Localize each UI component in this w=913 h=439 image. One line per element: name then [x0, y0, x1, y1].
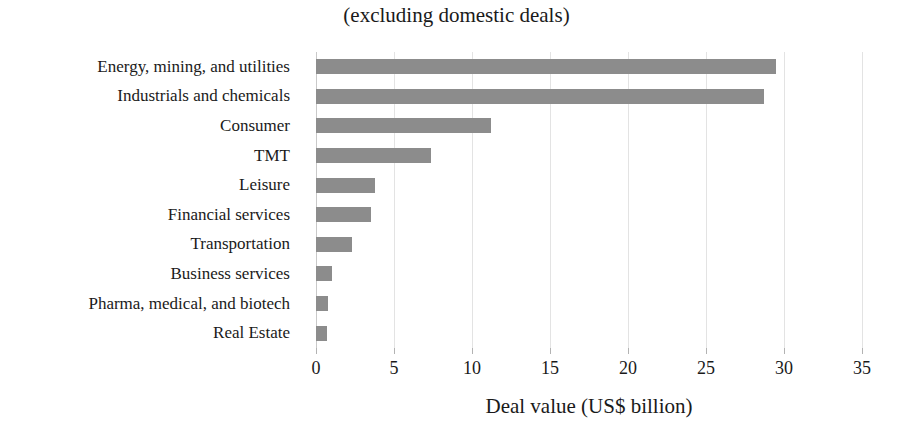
category-label: Pharma, medical, and biotech [88, 289, 290, 319]
gridline-35 [862, 52, 863, 348]
category-axis-labels: Energy, mining, and utilitiesIndustrials… [0, 52, 304, 348]
bar-row [316, 259, 862, 289]
x-tick-label: 0 [312, 356, 321, 380]
x-tick-label: 35 [853, 356, 871, 380]
chart-title: (excluding domestic deals) [0, 0, 913, 30]
x-tick-5 [394, 348, 395, 354]
x-tick-15 [550, 348, 551, 354]
category-label: Real Estate [213, 318, 290, 348]
x-tick-label: 15 [541, 356, 559, 380]
x-tick-label: 25 [697, 356, 715, 380]
bar-chart: (excluding domestic deals) Energy, minin… [0, 0, 913, 439]
category-label: Consumer [220, 111, 290, 141]
category-label: TMT [254, 141, 290, 171]
bar-row [316, 230, 862, 260]
bar [316, 296, 328, 311]
bar [316, 59, 776, 74]
x-tick-label: 5 [390, 356, 399, 380]
bar-row [316, 318, 862, 348]
category-label: Business services [171, 259, 290, 289]
x-tick-20 [628, 348, 629, 354]
bar-row [316, 289, 862, 319]
bar [316, 266, 332, 281]
x-tick-label: 20 [619, 356, 637, 380]
bar [316, 237, 352, 252]
bar [316, 207, 371, 222]
x-tick-10 [472, 348, 473, 354]
x-axis-tick-labels: 05101520253035 [316, 356, 862, 382]
x-tick-25 [706, 348, 707, 354]
x-tick-label: 30 [775, 356, 793, 380]
bar-row [316, 170, 862, 200]
bar-row [316, 141, 862, 171]
bar [316, 326, 327, 341]
x-tick-label: 10 [463, 356, 481, 380]
bar-row [316, 82, 862, 112]
bar [316, 148, 431, 163]
bar-row [316, 111, 862, 141]
plot-area [316, 52, 862, 348]
x-axis-title: Deal value (US$ billion) [316, 392, 862, 420]
bar-row [316, 52, 862, 82]
x-tick-0 [316, 348, 317, 354]
x-tick-35 [862, 348, 863, 354]
category-label: Industrials and chemicals [117, 82, 290, 112]
bar [316, 118, 491, 133]
bar [316, 178, 375, 193]
category-label: Leisure [239, 170, 290, 200]
category-label: Energy, mining, and utilities [97, 52, 290, 82]
bar-row [316, 200, 862, 230]
bar [316, 89, 764, 104]
x-tick-30 [784, 348, 785, 354]
category-label: Transportation [191, 230, 291, 260]
category-label: Financial services [168, 200, 290, 230]
bar-series [316, 52, 862, 348]
